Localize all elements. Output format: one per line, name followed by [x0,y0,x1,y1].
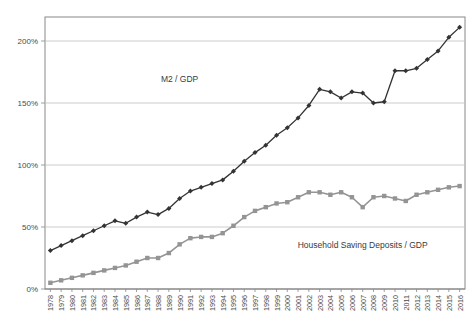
x-axis-tick-label: 2012 [413,295,422,311]
data-point [156,256,160,260]
data-point [328,193,332,197]
data-point [59,278,63,282]
data-point [167,251,171,255]
x-axis-tick-label: 1999 [273,295,282,311]
x-axis-tick-label: 1980 [68,295,77,311]
y-axis-tick-label: 150% [18,99,38,108]
data-point [457,184,461,188]
x-axis-tick-label: 1987 [143,295,152,311]
data-point [382,194,386,198]
x-axis-tick-label: 1984 [111,295,120,311]
x-axis-tick-label: 2007 [359,295,368,311]
x-axis-tick-label: 1994 [219,295,228,311]
data-point [134,260,138,264]
data-point [231,224,235,228]
x-axis-tick-label: 1978 [46,295,55,311]
y-axis-tick-label: 100% [18,161,38,170]
x-axis-tick-label: 1990 [176,295,185,311]
x-axis-tick-label: 1979 [57,295,66,311]
x-axis-tick-label: 2013 [423,295,432,311]
x-axis-tick-label: 2005 [337,295,346,311]
x-axis-tick-label: 1985 [122,295,131,311]
data-point [264,205,268,209]
data-point [436,188,440,192]
data-point [350,195,354,199]
data-point [339,190,343,194]
data-point [253,209,257,213]
data-point [220,231,224,235]
x-axis-tick-label: 2010 [391,295,400,311]
data-point [425,190,429,194]
data-point [447,185,451,189]
x-axis-tick-label: 1981 [79,295,88,311]
x-axis-labels: 1978197919801981198219831984198519861987… [46,289,464,311]
data-point [91,271,95,275]
data-point [48,281,52,285]
x-axis-tick-label: 2004 [326,295,335,311]
data-point [124,263,128,267]
x-axis-tick-label: 2003 [316,295,325,311]
series-label: M2 / GDP [161,74,199,84]
x-axis-tick-label: 2016 [456,295,465,311]
data-point [80,273,84,277]
x-axis-tick-label: 2000 [283,295,292,311]
data-point [177,242,181,246]
x-axis-tick-label: 1989 [165,295,174,311]
data-point [296,195,300,199]
x-axis-tick-label: 1982 [89,295,98,311]
x-axis-tick-label: 1997 [251,295,260,311]
y-axis-tick-label: 0% [26,285,38,294]
x-axis-tick-label: 1983 [100,295,109,311]
x-axis-tick-label: 2008 [369,295,378,311]
x-axis-tick-label: 2001 [294,295,303,311]
data-point [210,235,214,239]
data-point [113,266,117,270]
data-point [371,195,375,199]
x-axis-tick-label: 1993 [208,295,217,311]
data-point [70,276,74,280]
data-point [199,235,203,239]
x-axis-tick-label: 1998 [262,295,271,311]
data-point [307,190,311,194]
data-point [145,256,149,260]
data-point [188,236,192,240]
x-axis-tick-label: 1992 [197,295,206,311]
series-label: Household Saving Deposits / GDP [298,240,428,250]
x-axis-tick-label: 1996 [240,295,249,311]
data-point [393,196,397,200]
y-axis-tick-label: 200% [18,37,38,46]
x-axis-tick-label: 1991 [186,295,195,311]
x-axis-tick-label: 2009 [380,295,389,311]
data-point [285,200,289,204]
data-point [404,199,408,203]
data-point [102,268,106,272]
chart-container: 0%50%100%150%200%19781979198019811982198… [0,0,476,325]
data-point [242,215,246,219]
x-axis-tick-label: 2006 [348,295,357,311]
y-axis-tick-label: 50% [22,223,38,232]
gdp-ratio-line-chart: 0%50%100%150%200%19781979198019811982198… [0,0,476,325]
x-axis-tick-label: 2015 [445,295,454,311]
data-point [360,205,364,209]
x-axis-tick-label: 1995 [229,295,238,311]
x-axis-tick-label: 1988 [154,295,163,311]
x-axis-tick-label: 2014 [434,295,443,311]
data-point [414,193,418,197]
x-axis-tick-label: 2002 [305,295,314,311]
x-axis-tick-label: 1986 [133,295,142,311]
x-axis-tick-label: 2011 [402,295,411,310]
data-point [274,201,278,205]
data-point [317,190,321,194]
